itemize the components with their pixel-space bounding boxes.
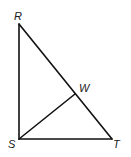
- label-s: S: [8, 138, 16, 150]
- label-t: T: [113, 138, 121, 150]
- label-r: R: [14, 10, 22, 22]
- triangle-diagram: R S T W: [0, 0, 131, 157]
- triangle-edges: [19, 24, 112, 139]
- segment-sw: [19, 94, 75, 139]
- segment-rt: [19, 24, 112, 139]
- label-w: W: [79, 82, 91, 94]
